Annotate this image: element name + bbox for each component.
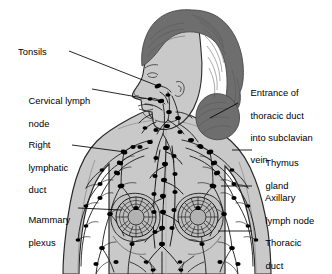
node: [231, 182, 236, 186]
node: [177, 130, 182, 134]
node: [100, 168, 105, 171]
node: [97, 196, 102, 200]
node: [159, 226, 165, 230]
node-thoracic-entrance: [188, 138, 194, 142]
node: [97, 182, 102, 186]
node: [231, 196, 236, 200]
node: [164, 124, 170, 128]
lymphatic-system-figure: Tonsils Cervical lymph node Right lympha…: [0, 0, 332, 274]
node: [93, 262, 98, 266]
node: [235, 262, 240, 266]
node: [171, 154, 176, 158]
node: [246, 224, 251, 227]
label-tonsils: Tonsils: [18, 46, 47, 57]
right-areola: [190, 209, 206, 225]
node: [84, 224, 89, 227]
label-right-lymphatic-duct: Right lymphatic duct: [18, 128, 68, 206]
node: [151, 268, 156, 271]
node: [160, 210, 166, 214]
node: [107, 212, 113, 216]
label-line: lymphatic: [29, 162, 69, 173]
node: [143, 126, 148, 129]
node: [172, 190, 177, 194]
label-line: Cervical lymph: [29, 95, 91, 106]
label-line: node: [29, 118, 50, 129]
node: [217, 260, 222, 264]
node: [151, 210, 156, 214]
node: [130, 145, 135, 149]
label-line: thoracic duct: [251, 110, 304, 121]
label-line: into subclavian: [251, 132, 313, 143]
node: [161, 178, 167, 182]
node: [172, 172, 177, 176]
node: [129, 242, 134, 246]
node: [163, 146, 169, 150]
label-thoracic-duct: Thoracic duct: [255, 226, 301, 274]
node: [166, 110, 172, 114]
node: [133, 206, 139, 210]
label-line: Entrance of: [251, 87, 299, 98]
left-areola: [128, 209, 144, 225]
node: [165, 93, 170, 97]
node: [162, 162, 168, 166]
right-mammary-plexus: [178, 197, 218, 237]
node: [195, 206, 201, 210]
node: [179, 268, 184, 271]
node: [160, 194, 166, 198]
label-line: Thoracic: [265, 237, 301, 248]
label-line: Mammary: [29, 214, 71, 225]
node: [113, 260, 118, 264]
label-line: Axillary: [265, 192, 295, 203]
node: [221, 212, 227, 216]
label-line: lymph node: [266, 215, 315, 226]
node: [147, 140, 153, 144]
node: [151, 192, 156, 196]
node: [152, 174, 157, 178]
node: [199, 242, 204, 246]
node: [169, 226, 174, 230]
label-line: duct: [29, 184, 47, 195]
node: [159, 242, 165, 246]
node: [153, 128, 158, 132]
node: [152, 230, 157, 234]
left-mammary-plexus: [116, 197, 156, 237]
node: [153, 156, 158, 160]
node: [171, 208, 176, 212]
node: [230, 168, 235, 171]
label-line: Right: [29, 139, 51, 150]
node: [76, 238, 81, 241]
node: [99, 246, 105, 250]
node: [198, 145, 203, 149]
node: [246, 204, 251, 207]
label-line: duct: [266, 260, 284, 271]
node: [229, 246, 235, 250]
node: [84, 204, 89, 207]
node: [178, 260, 183, 263]
label-mammary-plexus: Mammary plexus: [18, 203, 70, 259]
node: [137, 145, 142, 149]
node: [144, 260, 149, 263]
label-line: plexus: [29, 237, 56, 248]
label-line: Thymus: [265, 157, 298, 168]
node: [175, 116, 181, 120]
